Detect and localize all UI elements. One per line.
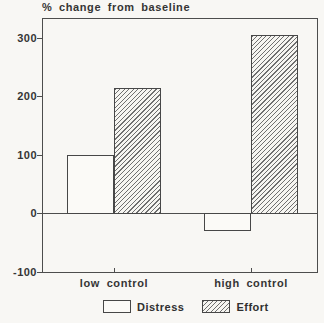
chart-title: % change from baseline	[42, 1, 190, 13]
legend-label-effort: Effort	[236, 301, 268, 313]
bar-distress-high-control	[204, 213, 251, 231]
x-category-label: low control	[59, 277, 169, 289]
y-axis-tick	[37, 38, 42, 39]
legend: Distress Effort	[103, 300, 269, 313]
x-axis-tick	[114, 268, 115, 272]
y-tick-label: 100	[0, 148, 37, 162]
bar-effort-high-control	[251, 35, 298, 214]
y-tick-label: 300	[0, 31, 37, 45]
bar-distress-low-control	[67, 155, 114, 214]
y-axis-tick	[37, 272, 42, 273]
y-tick-label: -100	[0, 265, 37, 279]
legend-label-distress: Distress	[137, 301, 184, 313]
y-axis-tick	[37, 96, 42, 97]
bar-effort-low-control	[114, 88, 161, 214]
y-axis-tick	[37, 213, 42, 214]
plot-area	[42, 18, 318, 273]
legend-swatch-effort	[202, 300, 230, 313]
y-tick-label: 200	[0, 89, 37, 103]
bar-chart: % change from baseline Distress Effort 3…	[0, 0, 324, 323]
y-axis-tick	[37, 155, 42, 156]
legend-swatch-distress	[103, 300, 131, 313]
x-axis-tick	[251, 268, 252, 272]
x-category-label: high control	[196, 277, 306, 289]
y-tick-label: 0	[0, 206, 37, 220]
